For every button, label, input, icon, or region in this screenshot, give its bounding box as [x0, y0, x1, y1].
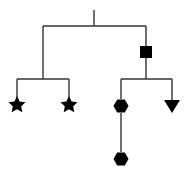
hexagon-leaf-icon: [114, 153, 129, 166]
square-node-icon: [140, 46, 152, 58]
hexagon-node-icon: [114, 100, 129, 113]
star-leaf-icon: [61, 96, 78, 112]
tree-diagram: [0, 0, 189, 176]
triangle-down-leaf-icon: [164, 100, 180, 113]
star-leaf-icon: [9, 96, 26, 112]
